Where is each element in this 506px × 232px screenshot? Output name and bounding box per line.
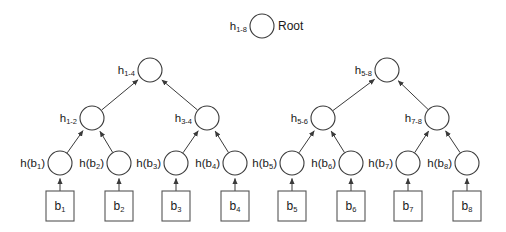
edge-h_b1-to-h_1_2 <box>67 131 83 153</box>
nodes-layer: h1-8Rooth1-4h5-8h1-2h3-4h5-6h7-8h(b1)h(b… <box>20 14 481 221</box>
edge-h_b3-to-h_3_4 <box>183 131 198 153</box>
node-h_b5 <box>280 151 304 175</box>
node-h_3_4 <box>195 106 219 130</box>
node-h_b4 <box>223 151 247 175</box>
edge-h_b4-to-h_3_4 <box>215 131 228 152</box>
node-h_b3 <box>164 151 188 175</box>
label-h_5_6: h5-6 <box>291 112 308 126</box>
label-h_1_2: h1-2 <box>60 112 77 126</box>
label-h_5_8: h5-8 <box>355 64 372 78</box>
node-h_1_4 <box>138 58 162 82</box>
node-h_b1 <box>48 151 72 175</box>
root-annotation: Root <box>278 19 304 33</box>
merkle-tree-diagram: h1-8Rooth1-4h5-8h1-2h3-4h5-6h7-8h(b1)h(b… <box>0 0 506 232</box>
label-h_b3: h(b3) <box>136 157 161 171</box>
node-h_b7 <box>396 151 420 175</box>
node-h_b2 <box>107 151 131 175</box>
label-h_b2: h(b2) <box>79 157 104 171</box>
node-h_1_8 <box>250 14 274 38</box>
label-h_b5: h(b5) <box>252 157 277 171</box>
label-h_b1: h(b1) <box>20 157 45 171</box>
edge-h_3_4-to-h_1_4 <box>162 80 198 110</box>
label-h_b8: h(b8) <box>427 157 452 171</box>
label-h_b6: h(b6) <box>311 157 336 171</box>
label-h_7_8: h7-8 <box>405 112 422 126</box>
edge-h_b5-to-h_5_6 <box>299 131 314 153</box>
edge-h_1_2-to-h_1_4 <box>102 80 138 110</box>
edge-h_b7-to-h_7_8 <box>415 131 429 152</box>
label-h_3_4: h3-4 <box>175 112 192 126</box>
node-h_7_8 <box>425 106 449 130</box>
node-h_b8 <box>455 151 479 175</box>
edge-h_b2-to-h_1_2 <box>100 131 113 152</box>
merkle-tree-canvas: h1-8Rooth1-4h5-8h1-2h3-4h5-6h7-8h(b1)h(b… <box>0 0 506 232</box>
node-h_1_2 <box>80 106 104 130</box>
node-h_5_6 <box>311 106 335 130</box>
edge-h_5_6-to-h_5_8 <box>333 79 375 110</box>
node-h_b6 <box>339 151 363 175</box>
label-h_b4: h(b4) <box>195 157 220 171</box>
label-h_b7: h(b7) <box>368 157 393 171</box>
node-h_5_8 <box>375 58 399 82</box>
label-h_1_8: h1-8 <box>230 20 247 34</box>
edge-h_b6-to-h_5_6 <box>331 131 344 152</box>
label-h_1_4: h1-4 <box>118 64 135 78</box>
edge-h_b8-to-h_7_8 <box>446 131 460 153</box>
edge-h_7_8-to-h_5_8 <box>398 81 428 110</box>
